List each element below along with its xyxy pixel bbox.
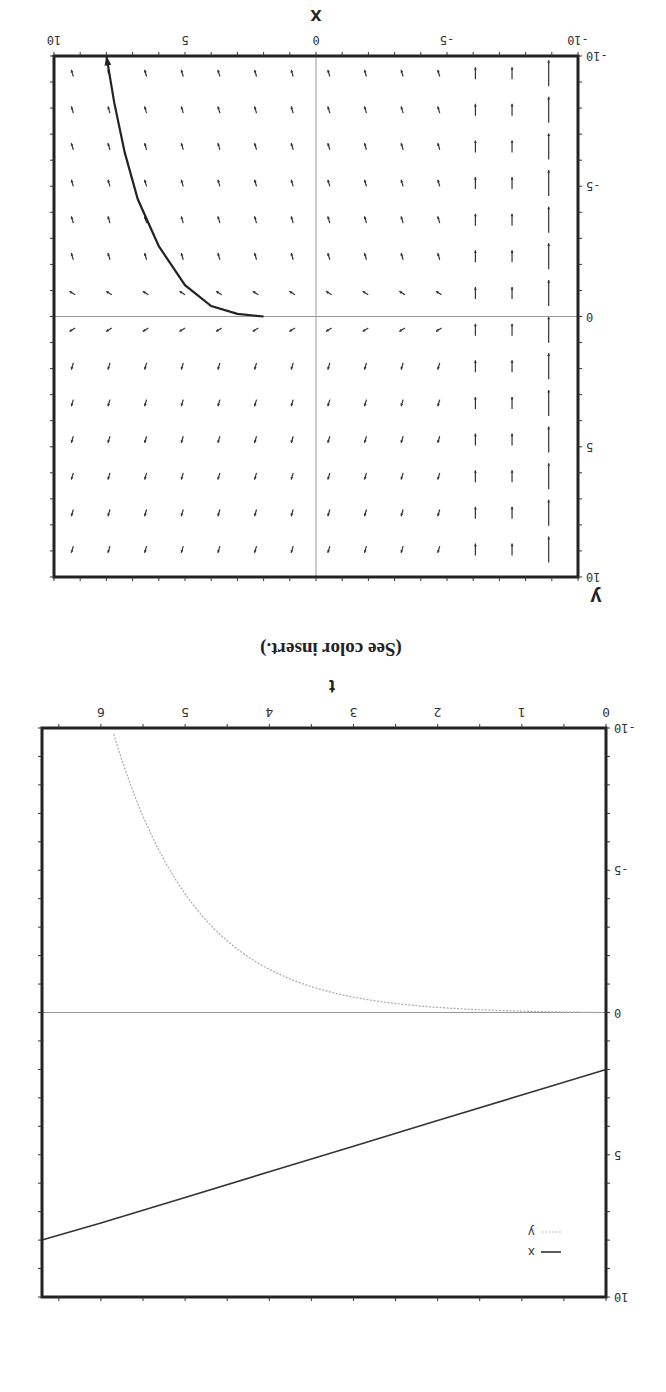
pp-y-tick-label: 10 bbox=[586, 570, 600, 584]
field-arrow-icon bbox=[547, 353, 550, 356]
ts-x-tick-label: 2 bbox=[434, 705, 442, 720]
field-arrow-icon bbox=[547, 207, 550, 210]
field-arrow-icon bbox=[474, 360, 477, 363]
ts-x-tick-label: 0 bbox=[602, 705, 610, 720]
ts-y-tick-label: -5 bbox=[614, 863, 628, 877]
field-arrow-icon bbox=[511, 507, 514, 510]
field-arrow-icon bbox=[547, 133, 550, 136]
pp-x-tick-label: -10 bbox=[567, 33, 589, 47]
ts-x-tick-label: 4 bbox=[265, 705, 273, 720]
field-arrow-icon bbox=[474, 434, 477, 437]
field-arrow-icon bbox=[474, 214, 477, 217]
ts-y-tick-label: 0 bbox=[614, 1006, 621, 1020]
phase-plane-y-label: y bbox=[590, 587, 602, 609]
field-arrow-icon bbox=[547, 317, 550, 320]
field-arrow-icon bbox=[547, 537, 550, 540]
figure-rotated-group: -10-50510-10-50510 x y (See color insert… bbox=[38, 6, 636, 1304]
field-arrow-icon bbox=[547, 427, 550, 430]
field-arrow-icon bbox=[511, 470, 514, 473]
field-arrow-icon bbox=[474, 67, 477, 70]
field-arrow-icon bbox=[547, 97, 550, 100]
field-arrow-icon bbox=[511, 360, 514, 363]
field-arrow-icon bbox=[474, 250, 477, 253]
field-arrow-icon bbox=[511, 177, 514, 180]
legend: x y bbox=[528, 1225, 561, 1259]
phase-plane-chart: -10-50510-10-50510 x y bbox=[47, 6, 608, 609]
legend-y-label: y bbox=[528, 1225, 535, 1239]
figure: -10-50510-10-50510 x y (See color insert… bbox=[0, 0, 666, 1392]
time-series-chart: 0123456-10-50510 x y bbox=[38, 705, 636, 1304]
field-arrow-icon bbox=[511, 544, 514, 547]
ts-y-tick-label: 5 bbox=[614, 1148, 621, 1162]
field-arrow-icon bbox=[511, 287, 514, 290]
pp-y-tick-label: 5 bbox=[586, 440, 593, 454]
pp-x-tick-label: -5 bbox=[440, 33, 454, 47]
field-arrow-icon bbox=[547, 500, 550, 503]
pp-y-tick-label: -5 bbox=[586, 179, 600, 193]
field-arrow-icon bbox=[474, 104, 477, 107]
field-arrow-icon bbox=[474, 140, 477, 143]
series-y-line bbox=[114, 734, 606, 1013]
field-arrow-icon bbox=[547, 463, 550, 466]
ts-x-tick-label: 6 bbox=[97, 705, 105, 720]
pp-x-tick-label: 0 bbox=[312, 33, 319, 47]
ts-y-tick-label: -10 bbox=[614, 721, 636, 735]
pp-y-tick-label: 0 bbox=[586, 310, 593, 324]
field-arrow-icon bbox=[511, 324, 514, 327]
direction-field bbox=[70, 60, 551, 562]
ts-y-tick-label: 10 bbox=[614, 1290, 628, 1304]
field-arrow-icon bbox=[547, 60, 550, 63]
field-arrow-icon bbox=[474, 324, 477, 327]
field-arrow-icon bbox=[474, 470, 477, 473]
field-arrow-icon bbox=[511, 67, 514, 70]
series-x-line bbox=[42, 1069, 606, 1240]
field-arrow-icon bbox=[511, 104, 514, 107]
pp-x-tick-label: 5 bbox=[181, 33, 188, 47]
field-arrow-icon bbox=[547, 243, 550, 246]
ts-x-tick-label: 3 bbox=[350, 705, 358, 720]
figure-caption: (See color insert.) bbox=[260, 638, 402, 660]
field-arrow-icon bbox=[547, 170, 550, 173]
pp-x-tick-label: 10 bbox=[47, 33, 61, 47]
phase-plane-x-label: x bbox=[310, 6, 321, 28]
legend-x-label: x bbox=[528, 1245, 535, 1259]
field-arrow-icon bbox=[511, 250, 514, 253]
field-arrow-icon bbox=[474, 544, 477, 547]
field-arrow-icon bbox=[474, 507, 477, 510]
field-arrow-icon bbox=[511, 140, 514, 143]
field-arrow-icon bbox=[474, 177, 477, 180]
pp-y-tick-label: -10 bbox=[586, 49, 608, 63]
field-arrow-icon bbox=[474, 287, 477, 290]
phase-plane-ticks: -10-50510-10-50510 bbox=[47, 33, 608, 584]
field-arrow-icon bbox=[511, 434, 514, 437]
field-arrow-icon bbox=[474, 397, 477, 400]
time-series-x-label: t bbox=[329, 676, 335, 696]
trajectory-curve bbox=[106, 56, 263, 317]
field-arrow-icon bbox=[547, 390, 550, 393]
field-arrow-icon bbox=[547, 280, 550, 283]
ts-x-tick-label: 5 bbox=[181, 705, 189, 720]
ts-x-tick-label: 1 bbox=[518, 705, 526, 720]
field-arrow-icon bbox=[511, 214, 514, 217]
field-arrow-icon bbox=[511, 397, 514, 400]
